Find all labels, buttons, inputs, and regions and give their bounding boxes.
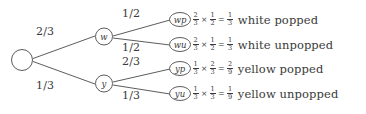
fraction-denominator: 3 bbox=[193, 19, 199, 27]
node-yu-label: yu bbox=[174, 89, 185, 99]
node-wp-label: wp bbox=[174, 15, 187, 25]
multiply-operator: × bbox=[201, 15, 207, 24]
fraction-numerator: 1 bbox=[210, 12, 216, 19]
fraction-denominator: 9 bbox=[227, 93, 233, 101]
fraction-numerator: 1 bbox=[210, 86, 216, 93]
fraction-numerator: 1 bbox=[227, 12, 233, 19]
fraction-denominator: 3 bbox=[227, 19, 233, 27]
edge-y-to-yp bbox=[113, 69, 170, 82]
fraction-denominator: 2 bbox=[210, 44, 216, 52]
outcome-row: 1 3 × 2 3 = 2 9 yellow popped bbox=[192, 62, 323, 76]
fraction-denominator: 3 bbox=[210, 93, 216, 101]
outcome-factor2: 1 2 bbox=[210, 37, 216, 51]
fraction-denominator: 3 bbox=[193, 44, 199, 52]
multiply-operator: × bbox=[201, 40, 207, 49]
outcome-factor1: 2 3 bbox=[193, 12, 199, 26]
probability-tree-diagram: w y wp wu yp yu 2/3 1/3 1/2 1/2 2/3 1/3 … bbox=[0, 0, 366, 114]
edge-w-to-wp bbox=[113, 20, 170, 36]
fraction-numerator: 2 bbox=[193, 12, 199, 19]
fraction-denominator: 2 bbox=[210, 19, 216, 27]
fraction-numerator: 2 bbox=[210, 61, 216, 68]
fraction-denominator: 3 bbox=[193, 93, 199, 101]
fraction-numerator: 1 bbox=[193, 61, 199, 68]
fraction-numerator: 1 bbox=[193, 86, 199, 93]
outcome-factor1: 2 3 bbox=[193, 37, 199, 51]
outcome-description: yellow unpopped bbox=[238, 87, 339, 101]
fraction-numerator: 1 bbox=[227, 86, 233, 93]
outcome-result: 1 3 bbox=[227, 12, 233, 26]
edge-label-root-to-w: 2/3 bbox=[36, 25, 54, 38]
fraction-numerator: 1 bbox=[210, 37, 216, 44]
node-yp-label: yp bbox=[174, 64, 186, 74]
edge-label-w-to-wp: 1/2 bbox=[122, 7, 140, 20]
equals-operator: = bbox=[218, 64, 225, 73]
node-wu-label: wu bbox=[174, 40, 187, 50]
outcome-factor2: 1 2 bbox=[210, 12, 216, 26]
outcome-factor2: 1 3 bbox=[210, 86, 216, 100]
node-w-label: w bbox=[100, 32, 108, 42]
outcome-row: 1 3 × 1 3 = 1 9 yellow unpopped bbox=[192, 87, 338, 101]
node-y-label: y bbox=[101, 79, 107, 89]
outcome-result: 1 9 bbox=[227, 86, 233, 100]
outcome-row: 2 3 × 1 2 = 1 3 white popped bbox=[192, 13, 318, 27]
equals-operator: = bbox=[218, 15, 225, 24]
outcome-description: white popped bbox=[238, 13, 318, 27]
fraction-denominator: 9 bbox=[227, 68, 233, 76]
equals-operator: = bbox=[218, 89, 225, 98]
fraction-denominator: 3 bbox=[193, 68, 199, 76]
edge-label-root-to-y: 1/3 bbox=[36, 79, 54, 92]
equals-operator: = bbox=[218, 40, 225, 49]
edge-label-y-to-yp: 2/3 bbox=[122, 55, 140, 68]
multiply-operator: × bbox=[201, 89, 207, 98]
edge-label-y-to-yu: 1/3 bbox=[122, 89, 140, 102]
outcome-result: 1 3 bbox=[227, 37, 233, 51]
node-root bbox=[12, 50, 33, 71]
outcome-description: yellow popped bbox=[238, 62, 324, 76]
outcome-factor1: 1 3 bbox=[193, 61, 199, 75]
outcome-description: white unpopped bbox=[238, 38, 333, 52]
fraction-numerator: 2 bbox=[227, 61, 233, 68]
edge-root-to-w bbox=[33, 36, 95, 59]
outcome-factor2: 2 3 bbox=[210, 61, 216, 75]
fraction-numerator: 2 bbox=[193, 37, 199, 44]
outcome-factor1: 1 3 bbox=[193, 86, 199, 100]
fraction-numerator: 1 bbox=[227, 37, 233, 44]
outcome-result: 2 9 bbox=[227, 61, 233, 75]
outcome-row: 2 3 × 1 2 = 1 3 white unpopped bbox=[192, 38, 333, 52]
edge-label-w-to-wu: 1/2 bbox=[122, 41, 140, 54]
fraction-denominator: 3 bbox=[210, 68, 216, 76]
fraction-denominator: 3 bbox=[227, 44, 233, 52]
multiply-operator: × bbox=[201, 64, 207, 73]
